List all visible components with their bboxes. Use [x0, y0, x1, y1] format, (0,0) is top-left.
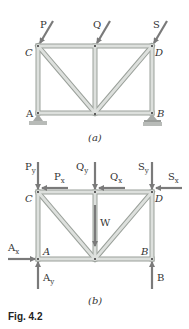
part-b-caption: (b)	[88, 295, 102, 306]
label-force-s: S	[153, 19, 160, 30]
label-force-sy: Sy	[138, 161, 149, 175]
label-force-py: Py	[25, 161, 36, 175]
label-force-ay: Ay	[42, 272, 54, 286]
label-node-c: C	[25, 47, 33, 58]
label-node-a: A	[25, 108, 34, 119]
label-force-ax: Ax	[7, 242, 19, 256]
truss-diagram: P Q S C D A B (a)	[0, 0, 189, 329]
part-a-caption: (a)	[88, 132, 102, 143]
label-force-sx: Sx	[168, 171, 179, 185]
label-force-q: Q	[93, 19, 101, 30]
label-node-d: D	[154, 47, 163, 58]
label-force-b: B	[157, 272, 164, 283]
label-node-d-b: D	[154, 193, 163, 204]
truss-b: Py Px Qy Qx Sy Sx W Ax Ay B C D A B (b)	[7, 161, 182, 306]
label-node-a-b: A	[42, 246, 50, 257]
label-force-qx: Qx	[110, 171, 122, 185]
label-force-qy: Qy	[76, 161, 88, 175]
label-node-b: B	[156, 108, 164, 119]
figure-caption: Fig. 4.2	[8, 311, 42, 322]
label-force-w: W	[100, 217, 111, 228]
truss-a: P Q S C D A B (a)	[25, 19, 167, 143]
label-force-px: Px	[54, 171, 65, 185]
label-force-p: P	[40, 19, 47, 30]
label-node-b-b: B	[140, 246, 148, 257]
label-node-c-b: C	[25, 193, 33, 204]
